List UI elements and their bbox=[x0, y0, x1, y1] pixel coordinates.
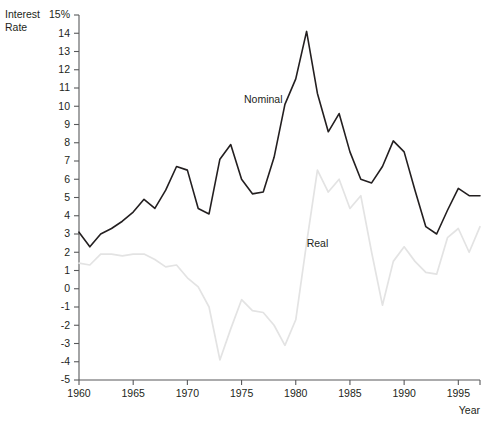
x-axis-title: Year bbox=[459, 404, 481, 416]
x-tick-label: 1980 bbox=[284, 387, 308, 399]
y-tick-label: -3 bbox=[61, 337, 70, 349]
y-tick-label: 2 bbox=[64, 246, 70, 258]
y-tick-label: 0 bbox=[64, 282, 70, 294]
x-tick-label: 1960 bbox=[67, 387, 91, 399]
y-axis-title-line1: Interest bbox=[5, 8, 40, 20]
x-tick-label: 1995 bbox=[447, 387, 471, 399]
y-tick-label: 6 bbox=[64, 173, 70, 185]
y-tick-label: 15% bbox=[49, 8, 70, 20]
y-tick-label: 1 bbox=[64, 264, 70, 276]
y-tick-label: -1 bbox=[61, 300, 70, 312]
y-tick-label: 3 bbox=[64, 227, 70, 239]
y-axis-ticks: 15%14131211109876543210-1-2-3-4-5 bbox=[49, 8, 79, 385]
y-tick-label: 4 bbox=[64, 209, 70, 221]
y-tick-label: -4 bbox=[61, 355, 70, 367]
y-tick-label: 8 bbox=[64, 136, 70, 148]
series-label-nominal: Nominal bbox=[244, 93, 283, 105]
x-tick-label: 1965 bbox=[122, 387, 146, 399]
x-tick-label: 1990 bbox=[392, 387, 416, 399]
interest-rate-chart: Interest Rate 15%14131211109876543210-1-… bbox=[0, 0, 487, 422]
y-tick-label: 10 bbox=[58, 100, 70, 112]
y-tick-label: -2 bbox=[61, 319, 70, 331]
y-tick-label: 11 bbox=[59, 81, 70, 93]
y-tick-label: 14 bbox=[58, 27, 70, 39]
x-tick-label: 1970 bbox=[176, 387, 200, 399]
y-tick-label: 7 bbox=[64, 154, 70, 166]
y-tick-label: 13 bbox=[58, 45, 70, 57]
chart-svg: Interest Rate 15%14131211109876543210-1-… bbox=[0, 0, 487, 422]
x-tick-label: 1975 bbox=[230, 387, 254, 399]
x-tick-label: 1985 bbox=[338, 387, 362, 399]
y-tick-label: 9 bbox=[64, 118, 70, 130]
series-line-nominal bbox=[79, 31, 480, 246]
y-tick-label: 5 bbox=[64, 191, 70, 203]
y-axis-title-line2: Rate bbox=[5, 21, 27, 33]
y-tick-label: -5 bbox=[61, 373, 70, 385]
series-label-real: Real bbox=[307, 237, 329, 249]
y-tick-label: 12 bbox=[58, 63, 70, 75]
x-axis-ticks: 19601965197019751980198519901995 bbox=[67, 380, 480, 399]
series-line-real bbox=[79, 170, 480, 360]
